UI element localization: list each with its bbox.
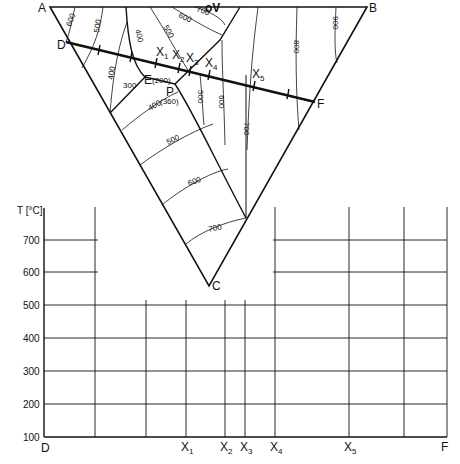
phase-diagram-figure: A B C D F oV E (200) P (360) X1 X2 X3 X4…	[0, 0, 460, 464]
y-tick-200: 200	[23, 399, 40, 410]
point-D-label: D	[57, 38, 66, 52]
y-tick-300: 300	[23, 366, 40, 377]
isotherm	[222, 40, 225, 145]
section-plot	[44, 207, 447, 437]
y-tick-500: 500	[23, 300, 40, 311]
isotherm	[162, 169, 228, 205]
isotherm	[140, 124, 213, 165]
point-E-temp: (200)	[152, 76, 171, 85]
contour-label: 800	[292, 40, 301, 54]
contour-label: 500	[161, 24, 176, 41]
section-mark-x3: X3	[186, 51, 199, 67]
x-label-x2: X2	[220, 440, 233, 456]
contour-label: 400	[133, 28, 145, 44]
contour-label: 900	[331, 16, 340, 30]
boundary-top-to-E	[126, 7, 145, 77]
isotherm	[82, 7, 103, 68]
y-tick-100: 100	[23, 432, 40, 443]
contour-label: 500	[165, 133, 181, 147]
vertex-A-label: A	[38, 1, 46, 15]
contour-label: 700	[242, 122, 251, 136]
ternary-labels: A B C D F oV E (200) P (360) X1 X2 X3 X4…	[38, 1, 377, 293]
x-label-x1: X1	[181, 440, 194, 456]
section-mark-x5: X5	[252, 67, 265, 83]
contour-label: 600	[177, 11, 193, 25]
point-E-label: E	[144, 73, 152, 87]
y-tick-400: 400	[23, 333, 40, 344]
x-label-F: F	[441, 440, 448, 454]
boundary-P-to-bottom	[175, 84, 246, 218]
section-mark-x2: X2	[172, 48, 185, 64]
contour-label: 500	[196, 90, 205, 104]
horizontal-gridlines	[44, 240, 447, 404]
contour-label: 600	[187, 175, 203, 188]
contour-label: 700	[208, 222, 223, 234]
y-tick-600: 600	[23, 267, 40, 278]
vertex-C-label: C	[212, 279, 221, 293]
isotherm	[296, 7, 299, 130]
section-mark-x4: X4	[205, 56, 218, 72]
vertex-B-label: B	[369, 1, 377, 15]
contour-label: 600	[217, 95, 226, 109]
y-axis-title: T [°C]	[17, 205, 43, 216]
x-label-x3: X3	[240, 440, 253, 456]
contour-label: 500	[92, 18, 103, 33]
contour-label: 400	[106, 65, 117, 80]
y-tick-700: 700	[23, 235, 40, 246]
x-label-x5: X5	[344, 440, 357, 456]
section-mark-x1: X1	[156, 45, 169, 61]
x-label-D: D	[41, 441, 50, 455]
contour-label: 600	[64, 12, 77, 28]
contour-label: 300	[123, 81, 137, 90]
x-label-x4: X4	[270, 440, 283, 456]
ternary-diagram	[50, 7, 367, 286]
point-F-label: F	[317, 97, 324, 111]
point-P-temp: (360)	[160, 97, 179, 106]
vertical-gridlines	[95, 207, 447, 437]
